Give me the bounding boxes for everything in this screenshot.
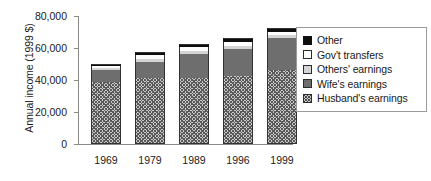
y-tick-label-60000: 60,000 — [35, 42, 67, 54]
y-tick-label-40000: 40,000 — [35, 74, 67, 86]
x-tick-label-1979: 1979 — [138, 154, 161, 166]
segment-husband-earnings — [223, 76, 253, 144]
segment-husband-earnings — [267, 70, 297, 144]
y-axis-title: Annual income (1999 $) — [23, 3, 35, 153]
y-tick-0: 0 — [74, 144, 78, 145]
bar-1989 — [179, 44, 209, 144]
legend-item-wife-earnings: Wife's earnings — [303, 77, 421, 92]
x-tick-label-1996: 1996 — [226, 154, 249, 166]
y-axis-line — [78, 16, 79, 145]
segment-husband-earnings — [91, 82, 121, 144]
segment-wife-earnings — [223, 49, 253, 76]
segment-husband-earnings — [135, 78, 165, 144]
y-tick-60000: 60,000 — [74, 48, 78, 49]
legend-label-other: Other — [317, 34, 343, 46]
x-axis-line — [78, 144, 293, 145]
segment-wife-earnings — [267, 38, 297, 69]
hatched-square-icon — [303, 94, 312, 103]
bar-1999 — [267, 28, 297, 144]
x-tick-label-1969: 1969 — [94, 154, 117, 166]
y-tick-label-80000: 80,000 — [35, 10, 67, 22]
segment-wife-earnings — [135, 62, 165, 77]
segment-wife-earnings — [179, 54, 209, 77]
legend-label-wife-earnings: Wife's earnings — [317, 78, 387, 90]
bar-1969 — [91, 64, 121, 144]
bar-1979 — [135, 52, 165, 144]
legend-item-govt-transfers: Gov't transfers — [303, 48, 421, 63]
x-tick-label-1989: 1989 — [182, 154, 205, 166]
legend-item-other: Other — [303, 33, 421, 48]
legend-item-others-earnings: Others' earnings — [303, 62, 421, 77]
chart-legend: Other Gov't transfers Others' earnings W… — [296, 27, 427, 112]
legend-label-govt-transfers: Gov't transfers — [317, 49, 383, 61]
y-tick-80000: 80,000 — [74, 16, 78, 17]
y-tick-label-20000: 20,000 — [35, 106, 67, 118]
y-tick-label-0: 0 — [61, 138, 67, 150]
x-tick-label-1999: 1999 — [270, 154, 293, 166]
bar-1996 — [223, 38, 253, 144]
segment-wife-earnings — [91, 70, 121, 81]
legend-label-husband-earnings: Husband's earnings — [317, 92, 408, 104]
legend-label-others-earnings: Others' earnings — [317, 63, 392, 75]
legend-item-husband-earnings: Husband's earnings — [303, 91, 421, 106]
dark-gray-square-icon — [303, 79, 312, 88]
white-square-icon — [303, 50, 312, 59]
segment-husband-earnings — [179, 78, 209, 144]
plot-area: 0 20,000 40,000 60,000 80,000 — [78, 16, 286, 144]
chart-figure: Annual income (1999 $) 0 20,000 40,000 6… — [0, 0, 431, 181]
y-tick-20000: 20,000 — [74, 112, 78, 113]
light-gray-square-icon — [303, 65, 312, 74]
black-square-icon — [303, 36, 312, 45]
y-tick-40000: 40,000 — [74, 80, 78, 81]
